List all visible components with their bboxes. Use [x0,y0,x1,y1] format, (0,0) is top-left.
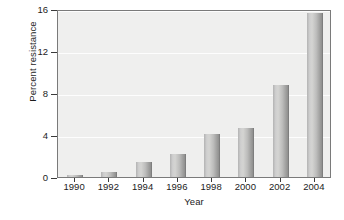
gridline [58,95,330,96]
bar [170,154,186,177]
plot-area [57,10,331,178]
bar [136,162,152,177]
x-axis-title: Year [57,196,331,207]
bar [307,13,323,177]
bar [204,134,220,177]
y-axis-tick-label: 0 [8,172,48,183]
y-axis-tick-label: 8 [8,88,48,99]
bar [101,172,117,177]
y-axis-tick [51,178,57,179]
gridline [58,11,330,12]
x-axis-tick-label: 2004 [294,181,334,192]
bar [67,175,83,177]
y-axis-title: Percent resistance [27,0,38,142]
y-axis-tick-label: 4 [8,130,48,141]
bar [238,128,254,177]
gridline [58,53,330,54]
gridline [58,137,330,138]
bar [273,85,289,177]
bar-chart-figure: Percent resistance 0481216 1990199219941… [0,0,344,220]
y-axis-tick-label: 12 [8,46,48,57]
y-axis-tick-label: 16 [8,4,48,15]
